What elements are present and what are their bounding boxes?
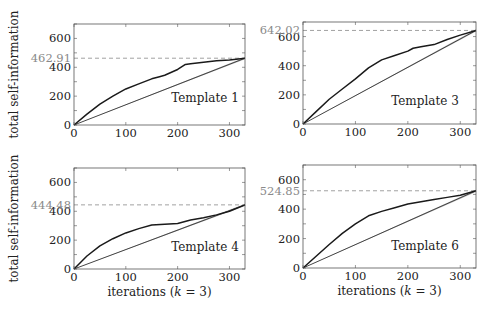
template-label: Template 6 (391, 239, 459, 253)
y-tick-label: 400 (278, 59, 300, 73)
y-tick-label: 600 (49, 31, 71, 45)
x-tick-label: 200 (397, 269, 419, 283)
y-tick-label: 200 (278, 88, 300, 102)
x-tick-label: 100 (344, 269, 366, 283)
chart-panel-3: 01002003000200400600444.48Template 4tota… (7, 154, 245, 299)
plot-frame (303, 22, 476, 124)
y-tick-label: 200 (49, 89, 71, 103)
template-label: Template 3 (391, 94, 459, 108)
baseline-line (303, 30, 476, 124)
x-tick-label: 200 (167, 126, 189, 140)
reference-value-label: 444.48 (31, 198, 71, 212)
x-tick-label: 100 (344, 125, 366, 139)
x-tick-label: 100 (115, 270, 137, 284)
reference-value-label: 642.02 (260, 23, 300, 37)
chart-figure: 01002003000200400600462.91Template 1tota… (0, 0, 494, 318)
y-tick-label: 200 (278, 232, 300, 246)
reference-value-label: 462.91 (31, 51, 71, 65)
y-tick-label: 200 (49, 233, 71, 247)
x-tick-label: 300 (218, 270, 240, 284)
plot-frame (74, 24, 245, 125)
x-axis-label: iterations (k = 3) (337, 284, 441, 298)
chart-panel-1: 01002003000200400600462.91Template 1tota… (7, 10, 245, 140)
y-axis-label: total self-information (7, 10, 21, 138)
y-tick-label: 0 (293, 117, 300, 131)
y-tick-label: 0 (64, 262, 71, 276)
y-tick-label: 0 (64, 118, 71, 132)
x-tick-label: 0 (70, 126, 77, 140)
y-tick-label: 0 (293, 261, 300, 275)
x-tick-label: 0 (70, 270, 77, 284)
x-tick-label: 0 (299, 125, 306, 139)
template-label: Template 1 (171, 91, 239, 105)
x-tick-label: 200 (397, 125, 419, 139)
x-tick-label: 300 (218, 126, 240, 140)
y-tick-label: 600 (49, 175, 71, 189)
reference-value-label: 524.85 (260, 184, 300, 198)
x-tick-label: 300 (449, 269, 471, 283)
x-tick-label: 300 (449, 125, 471, 139)
x-tick-label: 0 (299, 269, 306, 283)
chart-panel-4: 01002003000200400600524.85Template 6iter… (260, 165, 476, 298)
template-label: Template 4 (171, 240, 239, 254)
x-tick-label: 200 (167, 270, 189, 284)
chart-panel-2: 01002003000200400600642.02Template 3 (260, 22, 476, 139)
y-axis-label: total self-information (7, 154, 21, 282)
y-tick-label: 400 (278, 202, 300, 216)
x-axis-label: iterations (k = 3) (107, 285, 211, 299)
baseline-line (303, 191, 476, 268)
x-tick-label: 100 (115, 126, 137, 140)
